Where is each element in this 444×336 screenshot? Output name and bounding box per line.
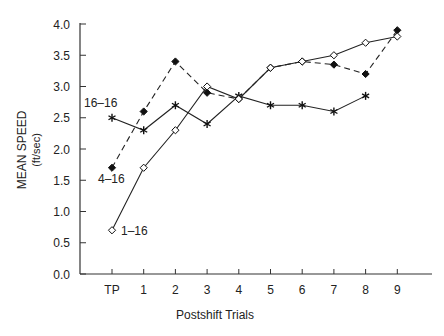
x-tick-label: 7: [331, 283, 338, 297]
open-diamond-marker: [204, 83, 211, 90]
series-1-16: [108, 33, 401, 234]
open-diamond-marker: [299, 58, 306, 65]
y-tick-label: 2.5: [53, 111, 70, 125]
y-tick-label: 0.0: [53, 268, 70, 282]
x-tick-label: 2: [172, 283, 179, 297]
asterisk-marker: [172, 101, 179, 109]
filled-diamond-marker: [362, 70, 369, 77]
filled-diamond-marker: [108, 164, 115, 171]
open-diamond-marker: [108, 227, 115, 234]
series-4-16: [108, 27, 401, 172]
series-label-1-16: 1–16: [121, 224, 148, 238]
x-tick-label: 8: [362, 283, 369, 297]
series-label-4-16: 4–16: [98, 172, 125, 186]
x-tick-label: 4: [235, 283, 242, 297]
series-line: [112, 30, 397, 168]
open-diamond-marker: [330, 52, 337, 59]
open-diamond-marker: [362, 39, 369, 46]
y-ticks: 0.00.51.01.52.02.53.03.54.0: [53, 18, 86, 282]
x-tick-label: 6: [299, 283, 306, 297]
y-tick-label: 1.0: [53, 205, 70, 219]
x-axis-label: Postshift Trials: [176, 308, 254, 322]
line-chart: 0.00.51.01.52.02.53.03.54.0 TP123456789 …: [0, 0, 444, 336]
filled-diamond-marker: [330, 61, 337, 68]
x-tick-label: 1: [140, 283, 147, 297]
asterisk-marker: [140, 126, 147, 134]
y-tick-label: 1.5: [53, 174, 70, 188]
series-label-16-16: 16–16: [84, 96, 118, 110]
filled-diamond-marker: [172, 58, 179, 65]
x-tick-label: TP: [104, 283, 119, 297]
y-tick-label: 3.5: [53, 49, 70, 63]
x-tick-label: 9: [394, 283, 401, 297]
x-tick-label: 5: [267, 283, 274, 297]
series-line: [112, 37, 397, 231]
y-axis-units: (ft/sec): [30, 133, 42, 167]
series-group: [108, 27, 401, 234]
x-tick-label: 3: [204, 283, 211, 297]
y-tick-label: 4.0: [53, 18, 70, 32]
filled-diamond-marker: [140, 108, 147, 115]
x-ticks: TP123456789: [104, 269, 401, 297]
y-tick-label: 0.5: [53, 236, 70, 250]
y-tick-label: 2.0: [53, 143, 70, 157]
y-axis-label: MEAN SPEED: [15, 110, 29, 189]
y-tick-label: 3.0: [53, 80, 70, 94]
asterisk-marker: [362, 92, 369, 100]
asterisk-marker: [109, 114, 116, 122]
